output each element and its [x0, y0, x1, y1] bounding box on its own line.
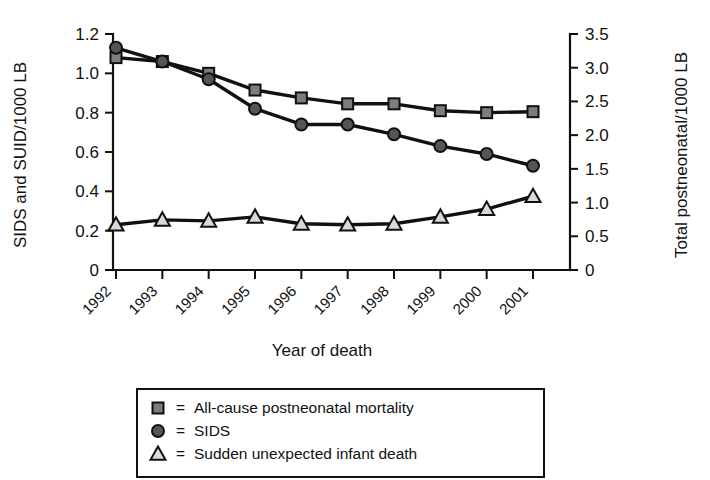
- y2-axis-title: Total postneonatal/1000 LB: [672, 52, 691, 258]
- y-axis-title: SIDS and SUID/1000 LB: [11, 62, 30, 248]
- y2-tick-label: 2.5: [585, 92, 609, 111]
- circle-marker-icon: [249, 103, 261, 115]
- y2-tick-label: 0.5: [585, 227, 609, 246]
- circle-marker-icon: [152, 425, 164, 437]
- y2-tick-label: 0: [585, 261, 594, 280]
- circle-marker-icon: [481, 148, 493, 160]
- square-marker-icon: [296, 92, 307, 103]
- circle-marker-icon: [110, 42, 122, 54]
- square-marker-icon: [481, 107, 492, 118]
- y-tick-label: 0.8: [75, 104, 99, 123]
- square-marker-icon: [528, 106, 539, 117]
- y-tick-label: 0.4: [75, 182, 99, 201]
- y-tick-label: 1.2: [75, 25, 99, 44]
- y2-tick-label: 2.0: [585, 126, 609, 145]
- circle-marker-icon: [342, 118, 354, 130]
- y2-tick-label: 3.5: [585, 25, 609, 44]
- y2-tick-label: 1.0: [585, 194, 609, 213]
- square-marker-icon: [389, 98, 400, 109]
- circle-marker-icon: [388, 128, 400, 140]
- legend-label-1: All-cause postneonatal mortality: [194, 399, 414, 416]
- legend-equals-sign: =: [176, 422, 185, 439]
- circle-marker-icon: [295, 118, 307, 130]
- y-tick-label: 1.0: [75, 64, 99, 83]
- y-tick-label: 0.6: [75, 143, 99, 162]
- circle-marker-icon: [156, 56, 168, 68]
- legend-label-3: Sudden unexpected infant death: [194, 445, 417, 462]
- y2-tick-label: 1.5: [585, 160, 609, 179]
- legend-label-2: SIDS: [194, 422, 230, 439]
- sids-postneonatal-mortality-chart: SIDS and SUID/1000 LB Total postneonatal…: [0, 0, 710, 480]
- legend-equals-sign: =: [176, 399, 185, 416]
- y-tick-label: 0.2: [75, 222, 99, 241]
- square-marker-icon: [435, 105, 446, 116]
- square-marker-icon: [342, 98, 353, 109]
- y2-tick-label: 3.0: [585, 59, 609, 78]
- y-tick-label: 0: [90, 261, 99, 280]
- square-marker-icon: [153, 403, 164, 414]
- circle-marker-icon: [527, 160, 539, 172]
- circle-marker-icon: [434, 140, 446, 152]
- square-marker-icon: [250, 85, 261, 96]
- legend-equals-sign: =: [176, 445, 185, 462]
- x-axis-title: Year of death: [272, 341, 373, 360]
- circle-marker-icon: [203, 73, 215, 85]
